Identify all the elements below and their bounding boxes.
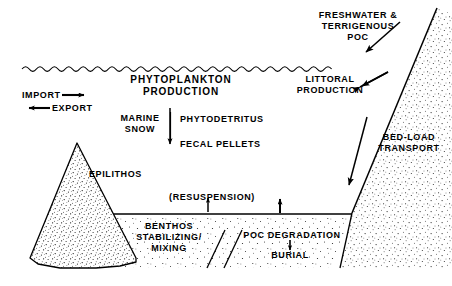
lake-carbon-flux-diagram: PHYTOPLANKTON PRODUCTION IMPORT EXPORT M… bbox=[0, 0, 452, 286]
freshwater-terrigenous-poc-label: FRESHWATER & TERRIGENOUS POC bbox=[306, 10, 410, 43]
bed-load-transport-arrow bbox=[349, 117, 367, 185]
water-surface bbox=[22, 67, 332, 72]
marine-snow-label: MARINE SNOW bbox=[116, 113, 164, 135]
littoral-production-arrow bbox=[360, 72, 388, 87]
phytoplankton-production-label: PHYTOPLANKTON PRODUCTION bbox=[118, 74, 244, 98]
export-label: EXPORT bbox=[52, 103, 98, 114]
epilithos-label: EPILITHOS bbox=[89, 169, 155, 180]
bed-load-transport-label: BED-LOAD TRANSPORT bbox=[374, 132, 444, 154]
resuspension-label: (RESUSPENSION) bbox=[160, 192, 264, 203]
import-label: IMPORT bbox=[22, 90, 64, 101]
poc-degradation-label: POC DEGRADATION bbox=[234, 230, 350, 241]
littoral-production-label: LITTORAL PRODUCTION bbox=[296, 74, 364, 96]
left-shoal bbox=[30, 143, 136, 268]
benthos-stabilizing-mixing-label: BENTHOS STABILIZING/ MIXING bbox=[128, 221, 210, 254]
phytodetritus-label: PHYTODETRITUS bbox=[180, 114, 276, 125]
fecal-pellets-label: FECAL PELLETS bbox=[180, 139, 278, 150]
burial-label: BURIAL bbox=[258, 250, 322, 261]
